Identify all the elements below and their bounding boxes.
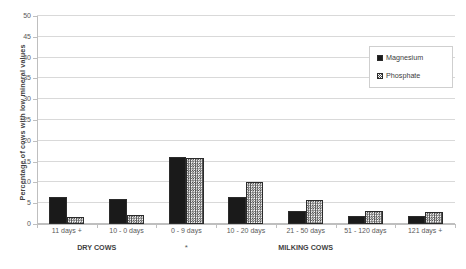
- y-tick-label-0: 0: [0, 220, 31, 227]
- bar-phosphate: [306, 200, 324, 224]
- legend-label-phosphate: Phosphate: [386, 71, 420, 80]
- bar-magnesium: [288, 211, 306, 224]
- y-tick-label-5: 5: [0, 199, 31, 206]
- bar-magnesium: [109, 199, 127, 224]
- x-axis-tick-labels: 11 days +10 - 0 days0 - 9 days10 - 20 da…: [37, 227, 455, 241]
- y-tick-label-35: 35: [0, 74, 31, 81]
- bar-chart: Percentage of cows with low mineral valu…: [0, 0, 466, 269]
- y-tick-label-50: 50: [0, 12, 31, 19]
- x-tick-label: 0 - 9 days: [156, 227, 216, 234]
- group-caption: DRY COWS: [37, 243, 156, 252]
- bar-phosphate: [186, 158, 204, 224]
- y-tick-label-10: 10: [0, 178, 31, 185]
- chart-legend: Magnesium Phosphate: [369, 46, 453, 88]
- y-tick-label-40: 40: [0, 54, 31, 61]
- x-tick-label: 121 days +: [395, 227, 455, 234]
- legend-item-magnesium: Magnesium: [377, 53, 446, 62]
- bar-magnesium: [348, 216, 366, 224]
- bar-phosphate: [67, 217, 85, 224]
- x-tick-label: 10 - 0 days: [97, 227, 157, 234]
- x-tick-mark: [395, 224, 396, 228]
- y-tick-label-20: 20: [0, 137, 31, 144]
- x-tick-mark: [276, 224, 277, 228]
- y-tick-label-15: 15: [0, 158, 31, 165]
- x-tick-mark: [37, 224, 38, 228]
- bar-group: [216, 16, 276, 224]
- x-tick-label: 11 days +: [37, 227, 97, 234]
- legend-swatch-magnesium: [377, 55, 383, 61]
- x-tick-mark: [97, 224, 98, 228]
- x-tick-mark: [336, 224, 337, 228]
- x-axis-line: [37, 224, 455, 225]
- bar-phosphate: [127, 215, 145, 224]
- bar-group: [156, 16, 216, 224]
- legend-swatch-phosphate: [377, 73, 383, 79]
- bar-magnesium: [228, 197, 246, 224]
- x-tick-label: 51 - 120 days: [336, 227, 396, 234]
- bar-group: [97, 16, 157, 224]
- bar-phosphate: [425, 212, 443, 224]
- x-tick-mark: [156, 224, 157, 228]
- legend-item-phosphate: Phosphate: [377, 71, 446, 80]
- bar-magnesium: [408, 216, 426, 224]
- x-tick-label: 10 - 20 days: [216, 227, 276, 234]
- annotation-asterisk: *: [156, 243, 216, 252]
- bar-magnesium: [169, 157, 187, 224]
- bar-phosphate: [365, 211, 383, 224]
- x-tick-mark: [455, 224, 456, 228]
- y-tick-label-45: 45: [0, 33, 31, 40]
- y-tick-label-25: 25: [0, 116, 31, 123]
- bar-group: [276, 16, 336, 224]
- x-tick-mark: [216, 224, 217, 228]
- y-tick-label-30: 30: [0, 95, 31, 102]
- y-axis-tick-labels: 05101520253035404550: [0, 0, 33, 269]
- x-tick-label: 21 - 50 days: [276, 227, 336, 234]
- legend-label-magnesium: Magnesium: [386, 53, 423, 62]
- bar-phosphate: [246, 182, 264, 224]
- bar-group: [37, 16, 97, 224]
- bar-magnesium: [49, 197, 67, 224]
